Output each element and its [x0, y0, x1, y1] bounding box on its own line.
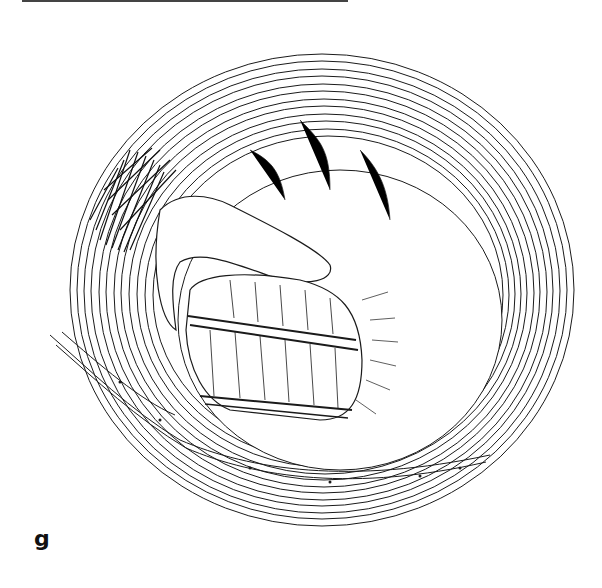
anatomical-illustration: [0, 0, 602, 588]
panel-label: g: [34, 526, 50, 551]
graft-window: [186, 275, 362, 420]
